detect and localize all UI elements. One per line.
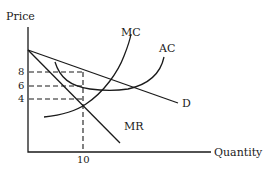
ac-label: AC bbox=[158, 42, 175, 55]
mr-label: MR bbox=[124, 120, 144, 133]
monopoly-chart: Price Quantity MC AC D MR 8 6 4 10 bbox=[0, 0, 269, 172]
y-axis-label: Price bbox=[6, 10, 35, 23]
y-tick-4: 4 bbox=[18, 93, 24, 104]
y-tick-6: 6 bbox=[18, 80, 24, 91]
mc-label: MC bbox=[121, 26, 141, 39]
d-label: D bbox=[182, 97, 191, 110]
x-axis-label: Quantity bbox=[214, 146, 263, 159]
y-tick-8: 8 bbox=[18, 66, 24, 77]
marginal-cost-curve bbox=[44, 34, 131, 117]
x-tick-10: 10 bbox=[77, 154, 90, 165]
marginal-revenue-curve bbox=[28, 50, 120, 143]
demand-curve bbox=[28, 50, 178, 103]
